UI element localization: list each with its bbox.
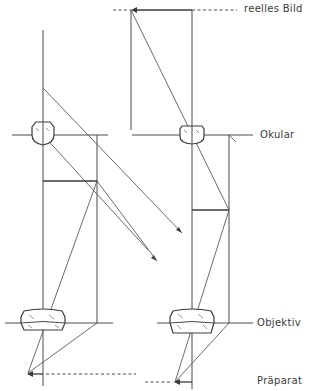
left-eyepiece-lens xyxy=(32,122,54,145)
left-objective-lens xyxy=(21,309,65,330)
label-specimen: Präparat xyxy=(257,375,302,386)
left-ray-lower xyxy=(43,135,148,250)
label-real-image: reelles Bild xyxy=(244,3,303,14)
left-ray-chief xyxy=(28,181,97,373)
left-ray-lower-ext xyxy=(97,181,157,261)
label-objective: Objektiv xyxy=(257,317,301,328)
right-ray-stub xyxy=(229,135,236,142)
left-panel xyxy=(5,30,182,386)
right-ray-chief-upper xyxy=(131,10,229,210)
right-panel xyxy=(113,7,253,389)
right-eyepiece-lens xyxy=(180,126,204,144)
right-objective-lens xyxy=(170,309,214,333)
right-ray-chief xyxy=(175,210,229,382)
ray-diagram-canvas xyxy=(0,0,309,391)
label-eyepiece: Okular xyxy=(260,129,295,140)
